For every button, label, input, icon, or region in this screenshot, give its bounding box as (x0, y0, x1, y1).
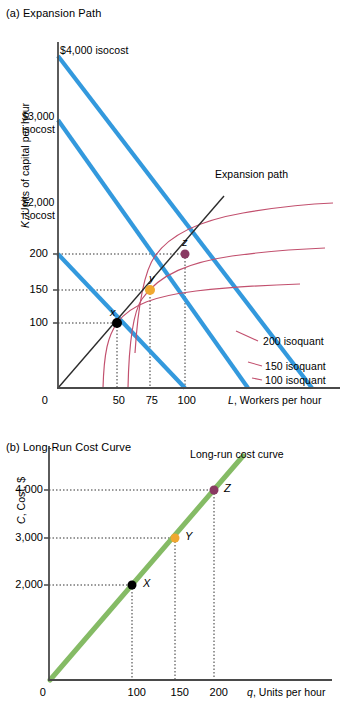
panel-expansion-path: (a) Expansion Path (0, 0, 354, 420)
x-tick-0-b: 0 (32, 686, 46, 698)
x-tick-100-a: 100 (168, 394, 196, 406)
isocost-3000-label-line1: $3,000 (22, 110, 54, 122)
point-x-marker (112, 318, 122, 328)
point-X-label: X (143, 577, 150, 589)
x-tick-100-b: 100 (118, 686, 146, 698)
y-tick-2000-b: 2,000 (5, 578, 43, 590)
x-tick-150-b: 150 (161, 686, 189, 698)
isoquant-150-label: 150 isoquant (265, 360, 326, 372)
x-tick-0-a: 0 (34, 394, 48, 406)
expansion-path-line (58, 196, 224, 388)
x-tick-75-a: 75 (136, 394, 158, 406)
isocost-2000-label-line2: isocost (22, 209, 55, 221)
x-tick-50-a: 50 (103, 394, 125, 406)
point-x-label: x (110, 306, 116, 318)
point-y-marker (145, 285, 155, 295)
isocost-2000-label-line1: $2,000 (22, 196, 54, 208)
panel-long-run-cost-curve: (b) Long-Run Cost Curve C, Cost, $ C, Co (0, 420, 354, 712)
y-tick-100-a: 100 (20, 316, 48, 328)
isoquant-100-label: 100 isoquant (265, 374, 326, 386)
isoquant-200-label: 200 isoquant (263, 335, 324, 347)
panel-b-plot (0, 420, 354, 712)
panel-a-x-axis-label: L, Workers per hour (228, 394, 322, 406)
y-tick-150-a: 150 (20, 283, 48, 295)
isocost-4000-label: $4,000 isocost (60, 44, 128, 56)
point-Z-label: Z (224, 482, 231, 494)
long-run-cost-curve-label: Long-run cost curve (190, 448, 284, 460)
point-Y-label: Y (185, 530, 192, 542)
point-X-marker (128, 581, 137, 590)
isoquant-leader-lines (236, 331, 262, 380)
point-z-label: z (182, 236, 188, 248)
y-tick-4000-b: 4,000 (5, 483, 43, 495)
y-tick-200-a: 200 (20, 247, 48, 259)
expansion-path-label: Expansion path (215, 168, 288, 180)
point-Z-marker (210, 486, 219, 495)
point-z-marker (181, 250, 190, 259)
panel-b-x-axis-label: q, Units per hour (247, 686, 325, 698)
x-tick-200-b: 200 (200, 686, 228, 698)
y-tick-3000-b: 3,000 (5, 531, 43, 543)
point-Y-marker (171, 534, 180, 543)
point-y-label: y (149, 272, 155, 284)
isocost-3000-label-line2: isocost (22, 123, 55, 135)
